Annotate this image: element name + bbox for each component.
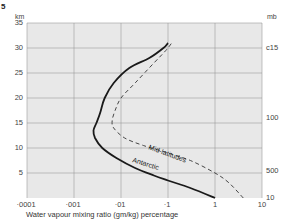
chart-plot: Antarctic Mid-latitudes	[0, 0, 286, 221]
